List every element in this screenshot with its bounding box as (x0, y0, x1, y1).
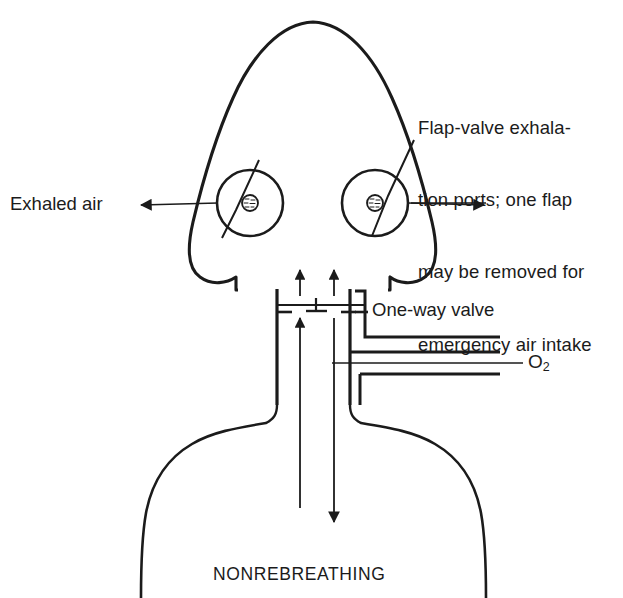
oxygen-label-subscript: 2 (543, 360, 550, 374)
flap-valve-callout-text: Flap-valve exhala- tion ports; one flap … (418, 68, 592, 405)
flap-valve-callout-line-3: may be removed for (418, 260, 592, 284)
flap-valve-callout-line-1: Flap-valve exhala- (418, 116, 592, 140)
mask-shell-outline (189, 22, 436, 290)
oxygen-label-symbol: O (528, 351, 543, 372)
nonrebreathing-mask-figure: Flap-valve exhala- tion ports; one flap … (0, 0, 623, 598)
one-way-valve-label: One-way valve (372, 298, 494, 322)
oxygen-label: O2 (528, 350, 550, 375)
figure-caption: NONREBREATHING (213, 563, 385, 586)
flap-valve-callout-line-2: tion ports; one flap (418, 188, 592, 212)
one-way-valve-assembly (277, 298, 365, 312)
neck-right-edge (350, 405, 361, 423)
neck-left-edge (266, 405, 277, 423)
flap-valve-callout-line-4: emergency air intake (418, 333, 592, 357)
exhaled-air-label: Exhaled air (10, 192, 103, 216)
